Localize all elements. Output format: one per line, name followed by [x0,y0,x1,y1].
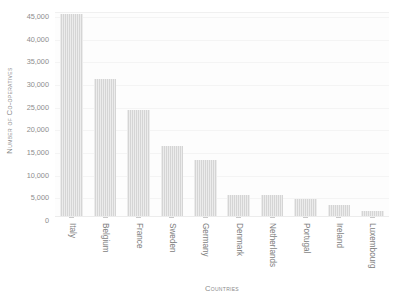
plot-area [55,12,389,217]
x-axis-tick-mark [336,217,341,218]
bar-chart-figure: Number of Co-operatives 05,00010,00015,0… [0,0,395,304]
x-axis-tick-label: Netherlands [268,223,277,267]
bar-slot [356,13,389,217]
bar-slot [222,13,255,217]
bar[interactable] [261,195,284,217]
x-label-slot: Netherlands [255,221,288,279]
y-axis-tick-label: 10,000 [27,170,49,179]
x-label-slot: France [122,221,155,279]
bar-slot [88,13,121,217]
y-axis-title-text: Number of Co-operatives [5,67,14,153]
x-axis-tick-mark [169,217,174,218]
y-axis-tick-label: 25,000 [27,102,49,111]
x-label-slot: Portugal [289,221,322,279]
x-label-slot: Italy [55,221,88,279]
x-axis-tick-label: Denmark [234,223,243,256]
y-axis-tick-label: 5,000 [31,193,49,202]
y-axis-tick-label: 15,000 [27,148,49,157]
x-label-slot: Germany [189,221,222,279]
y-axis-tick-label: 35,000 [27,57,49,66]
x-axis-title: Countries [55,284,389,293]
x-axis-tick-mark [203,217,208,218]
bar-slot [322,13,355,217]
bar[interactable] [294,199,317,217]
x-label-slot: Sweden [155,221,188,279]
x-axis-tick-mark [236,217,241,218]
bar-slot [255,13,288,217]
bar-slot [155,13,188,217]
bar[interactable] [127,110,150,217]
x-axis-tick-label: Sweden [167,223,176,253]
y-axis-tick-labels: 05,00010,00015,00020,00025,00030,00035,0… [18,0,52,220]
x-label-slot: Belgium [88,221,121,279]
y-axis-tick-label: 20,000 [27,125,49,134]
y-axis-tick-label: 40,000 [27,34,49,43]
bar-slot [289,13,322,217]
x-label-slot: Ireland [322,221,355,279]
bar-slot [189,13,222,217]
x-axis-tick-mark [303,217,308,218]
x-axis-tick-mark [270,217,275,218]
x-axis-tick-mark [136,217,141,218]
x-axis-tick-label: Germany [201,223,210,257]
x-axis-tick-label: France [134,223,143,248]
y-axis-tick-label: 45,000 [27,12,49,21]
bar[interactable] [94,79,117,217]
x-axis-tick-mark [69,217,74,218]
x-axis-tick-mark [370,217,375,218]
bar[interactable] [161,146,184,217]
y-axis-tick-label: 0 [45,216,49,225]
bar[interactable] [227,195,250,217]
x-axis-tick-mark [103,217,108,218]
x-axis-tick-labels: ItalyBelgiumFranceSwedenGermanyDenmarkNe… [55,221,389,279]
x-label-slot: Denmark [222,221,255,279]
x-axis-tick-label: Ireland [334,223,343,248]
bar[interactable] [60,14,83,217]
bar-slot [122,13,155,217]
x-axis-tick-label: Luxembourg [368,223,377,269]
bar[interactable] [194,160,217,217]
x-axis-tick-label: Portugal [301,223,310,254]
x-axis-tick-label: Belgium [101,223,110,253]
bar-slot [55,13,88,217]
y-axis-tick-label: 30,000 [27,80,49,89]
x-label-slot: Luxembourg [356,221,389,279]
y-axis-title: Number of Co-operatives [0,0,18,220]
bar-series [55,13,389,217]
x-axis-tick-label: Italy [67,223,76,238]
